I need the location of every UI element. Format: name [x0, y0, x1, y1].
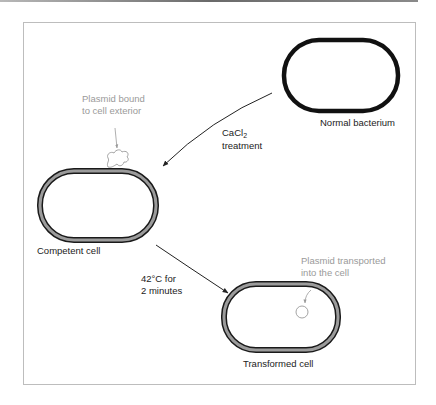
- transformed-cell-label: Transformed cell: [243, 358, 313, 369]
- treatment-label: treatment: [222, 140, 262, 151]
- cacl2-label: CaCl2: [222, 127, 247, 138]
- cacl2-text: CaCl: [222, 127, 243, 138]
- normal-bacterium-label: Normal bacterium: [320, 117, 395, 128]
- competent-cell-label: Competent cell: [37, 245, 100, 256]
- plasmid-transported-label-line1: Plasmid transported: [301, 255, 385, 266]
- heat-label-line2: 2 minutes: [141, 285, 182, 296]
- plasmid-inside-icon: [296, 306, 308, 318]
- cacl2-subscript: 2: [243, 132, 247, 139]
- plasmid-bound-label-line1: Plasmid bound: [82, 93, 145, 104]
- plasmid-bound-label-line2: to cell exterior: [82, 105, 141, 116]
- transformed-cell-shape: [224, 284, 338, 350]
- plasmid-transported-label-line2: into the cell: [301, 267, 349, 278]
- cacl2-treatment-arrow: [163, 93, 272, 166]
- competent-cell-shape: [40, 171, 156, 240]
- transformation-diagram: [0, 0, 436, 405]
- normal-bacterium-shape: [284, 40, 398, 111]
- heat-label-line1: 42°C for: [141, 273, 176, 284]
- plasmid-bound-icon: [107, 150, 128, 167]
- plasmid-transported-pointer: [305, 290, 311, 303]
- plasmid-bound-pointer: [115, 128, 117, 148]
